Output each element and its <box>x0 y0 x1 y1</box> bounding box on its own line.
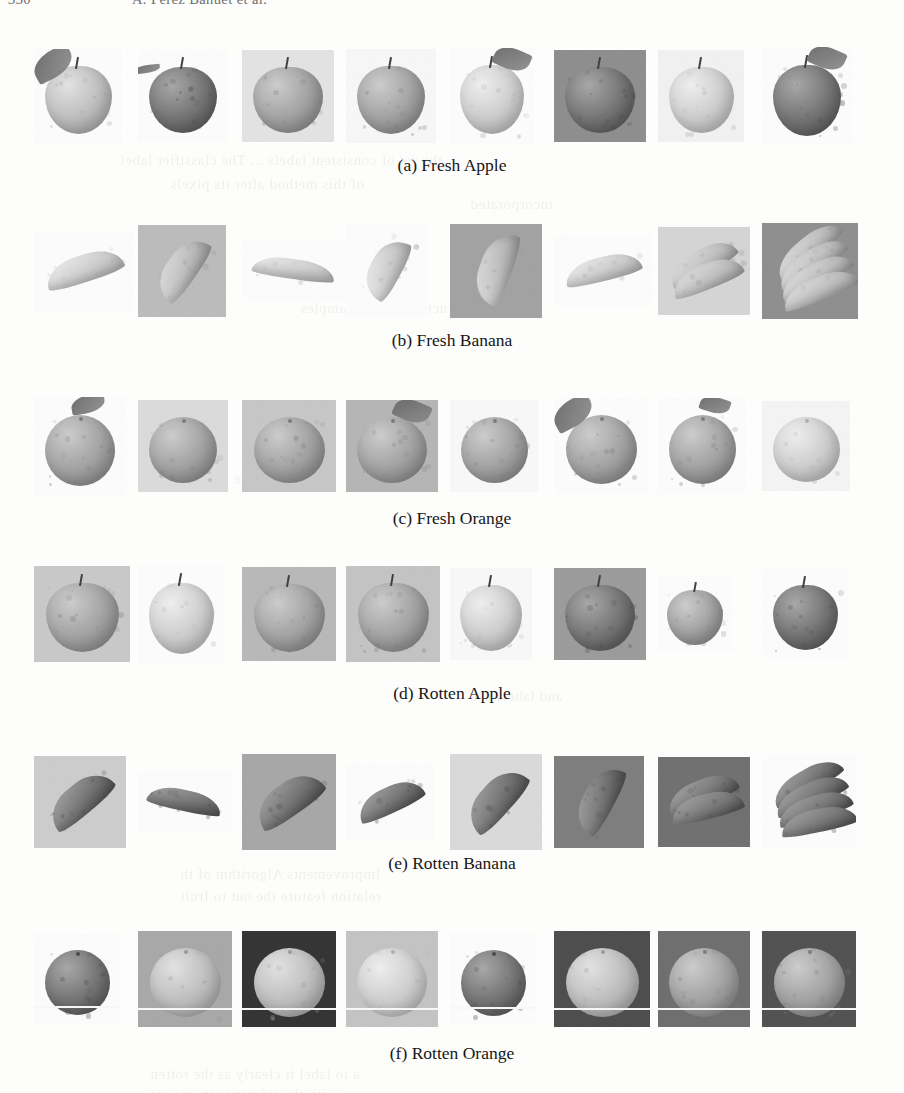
texture-speck <box>64 73 69 78</box>
texture-speck <box>84 980 89 985</box>
texture-speck <box>614 791 617 794</box>
texture-speck <box>519 435 523 439</box>
texture-speck <box>269 458 274 463</box>
fruit-body <box>254 417 325 483</box>
texture-speck <box>466 955 469 958</box>
texture-speck <box>595 603 598 606</box>
texture-speck <box>70 74 72 76</box>
texture-speck <box>585 594 590 599</box>
texture-speck <box>170 79 176 85</box>
texture-speck <box>679 482 683 486</box>
texture-speck <box>150 111 152 113</box>
texture-speck <box>176 632 179 635</box>
thumbnail-strip <box>34 217 870 325</box>
texture-speck <box>400 111 406 117</box>
texture-speck <box>831 766 837 772</box>
texture-speck <box>99 963 103 967</box>
banana-diagonal <box>346 225 426 317</box>
figure-caption-f: (f) Rotten Orange <box>0 1043 904 1064</box>
texture-speck <box>202 981 205 984</box>
texture-speck <box>81 456 85 460</box>
texture-speck <box>303 616 305 618</box>
texture-speck <box>593 797 598 802</box>
texture-speck <box>813 958 818 963</box>
texture-speck <box>776 614 778 616</box>
texture-speck <box>478 829 481 832</box>
texture-speck <box>213 950 218 955</box>
texture-speck <box>205 949 208 952</box>
texture-speck <box>632 264 637 269</box>
texture-speck <box>841 83 847 89</box>
texture-speck <box>87 952 93 958</box>
texture-speck <box>818 424 820 426</box>
texture-speck <box>386 593 389 596</box>
texture-speck <box>181 984 184 987</box>
texture-speck <box>624 94 628 98</box>
navel <box>76 952 80 956</box>
figure-row-f <box>0 925 904 1033</box>
apple-with-leaf-light <box>34 49 122 144</box>
texture-speck <box>518 981 522 985</box>
texture-speck <box>510 250 514 254</box>
texture-speck <box>466 73 469 76</box>
texture-speck <box>496 88 501 93</box>
texture-speck <box>511 99 515 103</box>
texture-speck <box>584 798 588 802</box>
texture-speck <box>83 78 88 83</box>
texture-speck <box>265 591 269 595</box>
texture-speck <box>809 465 814 470</box>
texture-speck <box>678 949 682 953</box>
navel <box>701 417 705 421</box>
texture-speck <box>59 81 63 85</box>
texture-speck <box>103 250 107 254</box>
texture-speck <box>211 641 216 646</box>
texture-speck <box>708 813 713 818</box>
rotten-banana-curved <box>138 771 232 833</box>
texture-speck <box>814 802 819 807</box>
texture-speck <box>599 79 603 83</box>
texture-speck <box>154 601 157 604</box>
texture-speck <box>515 444 519 448</box>
rotten-orange-boxed-lit <box>554 931 650 1027</box>
texture-speck <box>291 459 295 463</box>
texture-speck <box>678 461 682 465</box>
texture-speck <box>816 268 822 274</box>
texture-speck <box>777 809 780 812</box>
texture-speck <box>208 998 212 1002</box>
texture-speck <box>604 449 608 453</box>
texture-speck <box>466 426 469 429</box>
rotten-apple-wrinkled <box>450 568 532 660</box>
texture-speck <box>95 999 98 1002</box>
texture-speck <box>789 457 794 462</box>
texture-speck <box>472 807 478 813</box>
texture-speck <box>185 246 189 250</box>
texture-speck <box>507 74 510 77</box>
texture-speck <box>590 451 596 457</box>
texture-speck <box>696 600 700 604</box>
texture-speck <box>50 125 53 128</box>
apple-front-boxed <box>242 50 334 142</box>
texture-speck <box>809 256 815 262</box>
texture-speck <box>816 457 822 463</box>
texture-speck <box>694 952 696 954</box>
texture-speck <box>575 277 579 281</box>
texture-speck <box>49 483 52 486</box>
texture-speck <box>574 472 577 475</box>
texture-speck <box>405 474 407 476</box>
texture-speck <box>189 268 195 274</box>
texture-speck <box>831 441 835 445</box>
texture-speck <box>71 590 73 592</box>
texture-speck <box>817 625 819 627</box>
texture-speck <box>312 121 316 125</box>
texture-speck <box>384 109 387 112</box>
texture-speck <box>827 225 833 231</box>
texture-speck <box>280 456 282 458</box>
navel <box>601 950 605 954</box>
texture-speck <box>47 273 50 276</box>
navel <box>492 952 496 956</box>
texture-speck <box>488 806 496 814</box>
texture-speck <box>835 471 840 476</box>
navel <box>184 950 188 954</box>
texture-speck <box>306 790 310 794</box>
bleed-through-text: relation feature the out to fruit <box>180 888 381 905</box>
